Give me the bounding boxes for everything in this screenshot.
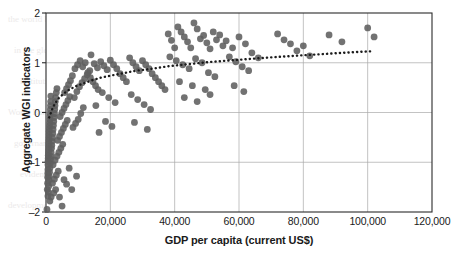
y-axis-title: Aggregate WGI indicators bbox=[20, 10, 32, 210]
scatter-point bbox=[147, 106, 154, 113]
scatter-point bbox=[191, 20, 198, 27]
scatter-point bbox=[200, 32, 207, 39]
scatter-point bbox=[226, 53, 233, 60]
scatter-point bbox=[339, 38, 346, 45]
scatter-point bbox=[173, 57, 180, 64]
scatter-point bbox=[176, 78, 183, 85]
scatter-point bbox=[189, 82, 196, 89]
scatter-point bbox=[300, 42, 307, 49]
x-tick-label: 40,000 bbox=[159, 215, 190, 227]
scatter-point bbox=[194, 98, 201, 105]
scatter-point bbox=[131, 119, 138, 126]
scatter-point bbox=[75, 116, 82, 123]
scatter-point bbox=[68, 186, 75, 193]
scatter-point bbox=[128, 91, 135, 98]
scatter-point bbox=[203, 39, 210, 46]
scatter-point bbox=[211, 73, 218, 80]
scatter-point bbox=[64, 117, 71, 124]
scatter-point bbox=[59, 203, 66, 210]
scatter-point bbox=[231, 82, 238, 89]
scatter-point bbox=[194, 26, 201, 33]
scatter-point bbox=[245, 67, 252, 74]
x-tick-label: 20,000 bbox=[95, 215, 126, 227]
scatter-point bbox=[364, 25, 371, 32]
scatter-point bbox=[229, 44, 236, 51]
scatter-point bbox=[210, 29, 217, 36]
scatter-point bbox=[112, 99, 119, 106]
x-axis-title: GDP per capita (current US$) bbox=[46, 234, 432, 246]
scatter-point bbox=[165, 30, 172, 37]
scatter-point bbox=[88, 51, 95, 58]
scatter-point bbox=[371, 33, 378, 40]
scatter-point bbox=[326, 31, 333, 38]
scatter-point bbox=[96, 129, 103, 136]
scatter-point bbox=[239, 63, 246, 70]
scatter-point bbox=[294, 47, 301, 54]
scatter-point bbox=[55, 168, 62, 175]
scatter-point bbox=[56, 194, 63, 201]
scatter-point bbox=[287, 40, 294, 47]
scatter-point bbox=[104, 66, 111, 73]
scatter-point bbox=[73, 173, 80, 180]
scatter-point bbox=[242, 40, 249, 47]
scatter-point bbox=[216, 31, 223, 38]
scatter-point bbox=[71, 94, 78, 101]
scatter-point bbox=[54, 85, 61, 92]
scatter-point bbox=[184, 38, 191, 45]
scatter-point bbox=[186, 65, 193, 72]
scatter-point bbox=[166, 53, 173, 60]
x-tick-label: 120,000 bbox=[414, 215, 451, 227]
scatter-point bbox=[82, 59, 89, 66]
scatter-point bbox=[134, 96, 141, 103]
scatter-point bbox=[123, 78, 130, 85]
x-tick-label: 60,000 bbox=[224, 215, 255, 227]
scatter-point bbox=[44, 206, 51, 213]
scatter-point bbox=[274, 30, 281, 37]
scatter-point bbox=[192, 55, 199, 62]
scatter-point bbox=[202, 86, 209, 93]
scatter-point bbox=[52, 186, 59, 193]
x-tick-label: 100,000 bbox=[349, 215, 386, 227]
scatter-point bbox=[207, 45, 214, 52]
scatter-point bbox=[141, 101, 148, 108]
scatter-point bbox=[102, 118, 109, 125]
scatter-point bbox=[223, 37, 230, 44]
scatter-point bbox=[61, 176, 68, 183]
scatter-point bbox=[207, 91, 214, 98]
x-tick-label: 80,000 bbox=[288, 215, 319, 227]
scatter-point bbox=[171, 44, 178, 51]
scatter-point bbox=[92, 102, 99, 109]
chart-figure: the world bank report on developmentin t… bbox=[0, 0, 462, 258]
scatter-point bbox=[77, 110, 84, 117]
scatter-point bbox=[94, 64, 101, 71]
scatter-point bbox=[181, 94, 188, 101]
scatter-point bbox=[69, 72, 76, 79]
scatter-point bbox=[236, 33, 243, 40]
scatter-point bbox=[99, 89, 106, 96]
scatter-point bbox=[80, 104, 87, 111]
scatter-point bbox=[281, 36, 288, 43]
scatter-point bbox=[240, 88, 247, 95]
scatter-point bbox=[168, 37, 175, 44]
scatter-point bbox=[105, 94, 112, 101]
scatter-point bbox=[144, 126, 151, 133]
scatter-point bbox=[248, 49, 255, 56]
x-tick-label: 0 bbox=[43, 215, 49, 227]
scatter-point bbox=[66, 165, 73, 172]
scatter-point bbox=[187, 44, 194, 51]
scatter-point bbox=[109, 123, 116, 130]
scatter-point bbox=[162, 86, 169, 93]
scatter-point bbox=[205, 69, 212, 76]
